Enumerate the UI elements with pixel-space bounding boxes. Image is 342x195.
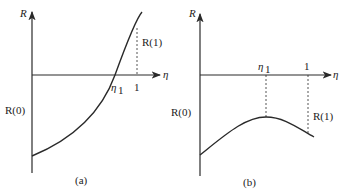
panel-b-peak-label: η — [258, 60, 263, 72]
diagram-canvas: R η η 1 1 R(1) R(0) (a) R η η 1 1 R(1) R… — [0, 0, 342, 195]
panel-b-r0-label: R(0) — [171, 106, 192, 119]
panel-a-root-label: η — [111, 81, 116, 93]
panel-b-x-label: η — [333, 68, 338, 80]
panel-a-r1-label: R(1) — [142, 36, 163, 49]
panel-b-curve — [200, 117, 314, 155]
panel-b-caption: (b) — [243, 176, 256, 189]
panel-b-y-label: R — [188, 7, 196, 19]
panel-b-r1-label: R(1) — [313, 110, 334, 123]
panel-a: R η η 1 1 R(1) R(0) (a) — [5, 7, 168, 187]
panel-a-r0-label: R(0) — [5, 104, 26, 117]
panel-a-tick-one: 1 — [134, 81, 140, 93]
panel-b-peak-sub: 1 — [265, 63, 271, 75]
panel-a-curve — [32, 12, 142, 156]
panel-a-x-label: η — [163, 68, 168, 80]
panel-a-caption: (a) — [75, 174, 88, 187]
panel-b: R η η 1 1 R(1) R(0) (b) — [171, 7, 338, 189]
panel-b-tick-one: 1 — [304, 60, 310, 72]
panel-a-root-sub: 1 — [118, 84, 124, 96]
panel-a-y-label: R — [19, 7, 27, 19]
